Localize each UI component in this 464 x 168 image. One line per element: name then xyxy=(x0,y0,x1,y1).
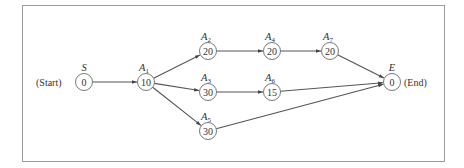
node-label: A6 xyxy=(264,72,275,85)
node-duration: 20 xyxy=(203,46,213,57)
node-subscript: 2 xyxy=(207,36,211,44)
node-duration: 0 xyxy=(82,77,87,88)
node-duration: 30 xyxy=(203,126,213,137)
node-subscript: 7 xyxy=(329,36,333,44)
node-a1: 10A1 xyxy=(138,62,155,91)
node-duration: 0 xyxy=(390,77,395,88)
edge-a1-to-a3 xyxy=(154,83,199,90)
node-a7: 20A7 xyxy=(322,31,339,60)
node-label: A1 xyxy=(138,62,149,75)
node-label: A7 xyxy=(322,31,333,44)
node-a5: 30A5 xyxy=(200,111,217,140)
node-a4: 20A4 xyxy=(264,31,281,60)
edge-a6-to-e xyxy=(280,83,383,92)
node-a3: 30A3 xyxy=(200,72,217,101)
end-label: (End) xyxy=(404,77,427,89)
node-label: E xyxy=(388,62,396,73)
node-s: 0S xyxy=(76,62,93,91)
node-subscript: 3 xyxy=(207,77,211,85)
node-label: A4 xyxy=(264,31,275,44)
node-label: A2 xyxy=(200,31,211,44)
node-label: S xyxy=(81,62,87,73)
node-duration: 30 xyxy=(203,87,213,98)
node-a2: 20A2 xyxy=(200,31,217,60)
node-a6: 15A6 xyxy=(264,72,281,101)
node-subscript: 4 xyxy=(271,36,275,44)
node-duration: 15 xyxy=(267,87,277,98)
node-duration: 20 xyxy=(325,46,335,57)
node-label: A5 xyxy=(200,111,211,124)
node-label: A3 xyxy=(200,72,211,85)
start-label: (Start) xyxy=(36,77,62,89)
activity-network-diagram: 0S10A120A230A330A520A415A620A70E (Start)… xyxy=(0,0,464,168)
edge-a5-to-e xyxy=(216,84,383,128)
edges-layer xyxy=(93,51,384,129)
node-subscript: 5 xyxy=(207,116,211,124)
node-duration: 10 xyxy=(141,77,151,88)
node-subscript: 6 xyxy=(271,77,275,85)
edge-a1-to-a2 xyxy=(154,55,200,78)
edge-a7-to-e xyxy=(338,55,384,78)
edge-a1-to-a5 xyxy=(153,87,201,125)
node-duration: 20 xyxy=(267,46,277,57)
node-e: 0E xyxy=(384,62,401,91)
node-subscript: 1 xyxy=(145,67,149,75)
